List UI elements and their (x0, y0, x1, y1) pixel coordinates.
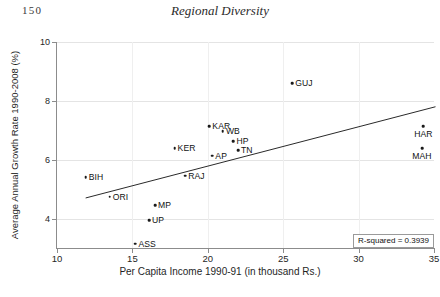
data-point-guj (291, 82, 294, 85)
data-point-ker (173, 147, 176, 150)
data-point-label-up: UP (152, 215, 164, 225)
y-tick-label: 4 (45, 214, 50, 224)
data-point-up (148, 219, 151, 222)
data-point-label-wb: WB (226, 126, 240, 136)
data-point-mah (421, 147, 424, 150)
y-tick-label: 10 (40, 37, 50, 47)
data-point-label-mah: MAH (412, 151, 431, 161)
data-point-tn (237, 149, 240, 152)
data-point-label-ass: ASS (138, 239, 156, 249)
r-squared-annotation: R-squared = 0.3939 (353, 234, 434, 248)
x-tick-label: 20 (203, 253, 214, 264)
data-point-ass (134, 242, 137, 245)
data-point-bih (84, 176, 87, 179)
y-tick-label: 8 (45, 96, 50, 106)
data-point-wb (222, 130, 225, 133)
x-tick-label: 35 (429, 253, 440, 264)
data-point-label-har: HAR (414, 129, 432, 139)
running-head-title: Regional Diversity (0, 3, 440, 19)
data-point-raj (184, 175, 187, 178)
data-point-label-tn: TN (241, 145, 253, 155)
y-axis-title: Average Annual Growth Rate 1990-2008 (%) (9, 51, 20, 239)
data-point-label-ap: AP (215, 151, 227, 161)
book-page: 150 Regional Diversity Average Annual Gr… (0, 0, 440, 297)
data-point-hp (232, 140, 235, 143)
y-tick-label: 6 (45, 155, 50, 165)
data-point-kar (208, 125, 211, 128)
x-tick-label: 30 (353, 253, 364, 264)
data-point-label-guj: GUJ (295, 78, 313, 88)
data-point-label-mp: MP (158, 200, 171, 210)
data-point-ori (108, 195, 111, 198)
scatter-plot-area: 46810101520253035 GUJKARWBHPTNKERAPHARMA… (57, 42, 434, 248)
data-point-label-ker: KER (178, 143, 196, 153)
x-tick-label: 10 (52, 253, 63, 264)
x-tick-label: 15 (127, 253, 138, 264)
x-axis-title: Per Capita Income 1990-91 (in thousand R… (0, 266, 440, 277)
x-tick-label: 25 (278, 253, 289, 264)
data-point-label-ori: ORI (113, 192, 129, 202)
data-point-label-bih: BIH (89, 172, 104, 182)
data-point-ap (211, 155, 214, 158)
data-point-har (422, 125, 425, 128)
data-point-mp (154, 204, 157, 207)
data-point-label-raj: RAJ (188, 171, 205, 181)
x-axis-line (56, 248, 435, 249)
